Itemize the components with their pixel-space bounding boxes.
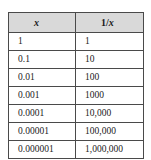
table-body: 1 1 0.1 10 0.01 100 0.001 1000 0.0001 10…: [9, 33, 144, 159]
cell-reciprocal: 10,000: [76, 105, 144, 123]
cell-x: 0.001: [9, 87, 76, 105]
cell-reciprocal: 100: [76, 69, 144, 87]
reciprocal-variable: x: [109, 17, 114, 28]
table-row: 0.001 1000: [9, 87, 144, 105]
table-header-row: x 1/x: [9, 13, 144, 33]
cell-x: 0.0001: [9, 105, 76, 123]
table-row: 0.0001 10,000: [9, 105, 144, 123]
cell-x: 0.01: [9, 69, 76, 87]
cell-reciprocal: 1000: [76, 87, 144, 105]
column-header-x-label: x: [18, 18, 39, 28]
table-row: 0.1 10: [9, 51, 144, 69]
column-header-x: x: [9, 13, 76, 33]
table-row: 0.00001 100,000: [9, 123, 144, 141]
table-row: 0.000001 1,000,000: [9, 141, 144, 159]
cell-reciprocal: 10: [76, 51, 144, 69]
cell-x: 0.1: [9, 51, 76, 69]
column-header-reciprocal: 1/x: [76, 13, 144, 33]
cell-reciprocal: 100,000: [76, 123, 144, 141]
reciprocal-prefix: 1/: [101, 17, 109, 28]
reciprocal-table-container: x 1/x 1 1 0.1 10 0.01 100 0.001 1: [8, 12, 143, 150]
cell-x: 1: [9, 33, 76, 51]
table-row: 1 1: [9, 33, 144, 51]
table-header: x 1/x: [9, 13, 144, 33]
reciprocal-table: x 1/x 1 1 0.1 10 0.01 100 0.001 1: [8, 12, 144, 159]
cell-reciprocal: 1: [76, 33, 144, 51]
table-row: 0.01 100: [9, 69, 144, 87]
cell-x: 0.00001: [9, 123, 76, 141]
column-header-reciprocal-label: 1/x: [85, 18, 114, 28]
cell-x: 0.000001: [9, 141, 76, 159]
cell-reciprocal: 1,000,000: [76, 141, 144, 159]
